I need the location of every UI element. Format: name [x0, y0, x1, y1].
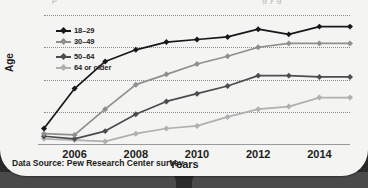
series-point-marker	[194, 37, 200, 43]
data-source-note: Data Source: Pew Research Center survey	[12, 158, 184, 168]
series-point-marker	[347, 40, 353, 46]
series-point-marker	[163, 71, 169, 77]
series-point-marker	[255, 73, 261, 79]
series-point-marker	[286, 31, 292, 37]
title-sliver-left: p	[52, 0, 57, 3]
series-point-marker	[286, 40, 292, 46]
series-point-marker	[316, 40, 322, 46]
series-point-marker	[286, 104, 292, 110]
series-point-marker	[286, 73, 292, 79]
series-point-marker	[102, 138, 108, 144]
legend-swatch-icon	[56, 38, 71, 45]
series-point-marker	[163, 39, 169, 45]
legend-item-label: 30–49	[74, 37, 94, 46]
series-point-marker	[316, 95, 322, 101]
series-point-marker	[255, 106, 261, 112]
legend-item[interactable]: 18–29	[56, 26, 126, 35]
series-point-marker	[225, 114, 231, 120]
series-point-marker	[225, 83, 231, 89]
series-point-marker	[225, 34, 231, 40]
legend-item-label: 64 or older	[74, 63, 111, 72]
legend-item[interactable]: 30–49	[56, 37, 126, 46]
series-line	[44, 76, 350, 139]
figure-card: p g y g Age 0255075100 20062008201020122…	[0, 0, 368, 176]
series-point-marker	[225, 53, 231, 59]
legend-swatch-icon	[56, 27, 71, 34]
legend-swatch-icon	[56, 53, 71, 60]
series-point-marker	[163, 98, 169, 104]
series-point-marker	[255, 26, 261, 32]
series-point-marker	[347, 95, 353, 101]
legend-swatch-icon	[56, 64, 71, 71]
legend-item-label: 50–64	[74, 52, 94, 61]
series-point-marker	[316, 74, 322, 80]
chart-legend: 18–2930–4950–6464 or older	[56, 26, 126, 74]
series-point-marker	[133, 131, 139, 137]
legend-item-label: 18–29	[74, 26, 94, 35]
series-point-marker	[133, 47, 139, 53]
series-point-marker	[163, 126, 169, 132]
series-point-marker	[194, 123, 200, 129]
series-point-marker	[347, 74, 353, 80]
legend-item[interactable]: 64 or older	[56, 63, 126, 72]
series-point-marker	[194, 91, 200, 97]
series-point-marker	[194, 61, 200, 67]
series-point-marker	[347, 24, 353, 30]
series-point-marker	[255, 44, 261, 50]
series-point-marker	[316, 24, 322, 30]
legend-item[interactable]: 50–64	[56, 52, 126, 61]
title-sliver-right: g y g	[262, 0, 282, 3]
